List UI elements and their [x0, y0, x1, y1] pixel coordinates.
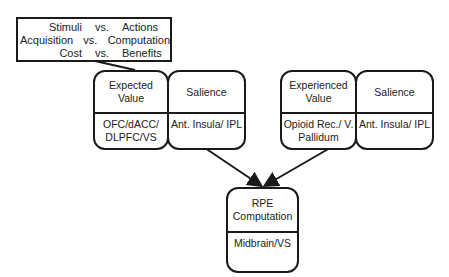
- comparison-vs: vs.: [82, 21, 122, 34]
- node-region: Ant. Insula/ IPL: [357, 114, 432, 148]
- comparison-right: Computation: [108, 34, 170, 47]
- comparison-row: Acquisition vs. Computation: [18, 34, 170, 47]
- node-salience-right: Salience Ant. Insula/ IPL: [355, 70, 434, 150]
- node-region: Midbrain/VS: [228, 233, 297, 271]
- node-region: Opioid Rec./ V. Pallidum: [282, 114, 355, 148]
- node-region: Ant. Insula/ IPL: [169, 114, 244, 148]
- comparison-box: Stimuli vs. Actions Acquisition vs. Comp…: [16, 17, 172, 62]
- comparison-right: Actions: [122, 21, 170, 34]
- comparison-vs: vs.: [82, 47, 122, 60]
- comparison-left: Acquisition: [18, 34, 73, 47]
- node-region: OFC/dACC/ DLPFC/VS: [95, 114, 167, 148]
- comparison-right: Benefits: [122, 47, 170, 60]
- node-title: Salience: [169, 72, 244, 114]
- node-title: Experienced Value: [282, 72, 355, 114]
- node-rpe-computation: RPE Computation Midbrain/VS: [226, 187, 299, 273]
- comparison-left: Stimuli: [18, 21, 82, 34]
- arrow-right-to-rpe: [266, 148, 330, 185]
- node-title: RPE Computation: [228, 189, 297, 233]
- node-title: Salience: [357, 72, 432, 114]
- comparison-row: Cost vs. Benefits: [18, 47, 170, 60]
- node-salience-left: Salience Ant. Insula/ IPL: [167, 70, 246, 150]
- node-title: Expected Value: [95, 72, 167, 114]
- comparison-vs: vs.: [73, 34, 107, 47]
- node-expected-value: Expected Value OFC/dACC/ DLPFC/VS: [93, 70, 169, 150]
- connector-comparison-to-expected: [95, 61, 135, 70]
- node-experienced-value: Experienced Value Opioid Rec./ V. Pallid…: [280, 70, 357, 150]
- comparison-row: Stimuli vs. Actions: [18, 21, 170, 34]
- comparison-left: Cost: [18, 47, 82, 60]
- arrow-left-to-rpe: [205, 148, 260, 185]
